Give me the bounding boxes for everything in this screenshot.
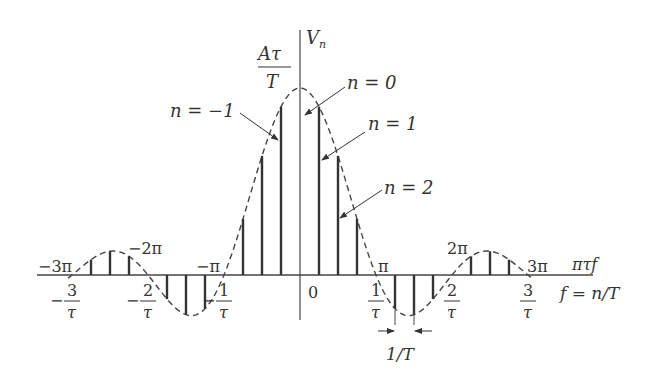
axis-name-pitauf: πτf	[571, 255, 600, 274]
bottom-tick-label: τ	[143, 303, 153, 322]
annotation-n-minus1: n = −1	[170, 100, 235, 121]
bottom-tick-label: 2	[447, 281, 457, 300]
spacing-label: 1/T	[386, 344, 416, 364]
tick-2pi: 2π	[447, 239, 468, 258]
spectrum-chart: Aτ T Vn n = 0 n = 1 n = −1 n = 2 −3π −2π…	[0, 0, 670, 387]
bottom-tick-label: 3	[67, 281, 77, 300]
bottom-tick-label: 1	[219, 281, 229, 300]
bottom-tick-label: 1	[371, 281, 381, 300]
tick-minus-2pi: −2π	[128, 239, 162, 258]
bottom-tick-label: −	[126, 291, 139, 310]
annotation-n2: n = 2	[384, 177, 434, 198]
bottom-tick-label: τ	[523, 303, 533, 322]
tick-3pi: 3π	[527, 257, 548, 276]
peak-label-den: T	[266, 71, 280, 92]
y-axis-label: Vn	[306, 27, 326, 51]
bottom-tick-label: τ	[67, 303, 77, 322]
peak-label-num: Aτ	[256, 43, 282, 64]
bottom-tick-label: 2	[143, 281, 153, 300]
bottom-tick-label: −	[50, 291, 63, 310]
bottom-tick-label: 0	[308, 283, 318, 302]
annotation-n1: n = 1	[368, 113, 418, 134]
axis-name-f: f = n/T	[558, 283, 621, 303]
bottom-tick-label: τ	[447, 303, 457, 322]
tick-minus-3pi: −3π	[38, 257, 72, 276]
bottom-tick-label: −	[202, 291, 215, 310]
bottom-tick-label: τ	[219, 303, 229, 322]
annotation-n0: n = 0	[347, 72, 397, 93]
bottom-tick-label: 3	[523, 281, 533, 300]
tick-pi: π	[378, 257, 389, 276]
tick-minus-pi: −π	[196, 257, 220, 276]
bottom-tick-label: τ	[371, 303, 381, 322]
